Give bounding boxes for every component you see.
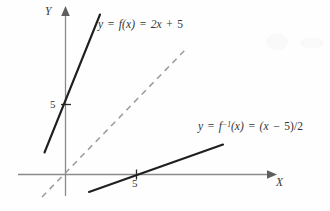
x-axis-tick-label-5: 5 (132, 177, 138, 189)
annotation-fx-coefficient-term: 2x (151, 18, 162, 30)
annotation-finv-equals-1: = (206, 120, 216, 132)
annotation-function-fx: y = f(x) = 2x + 5 (98, 18, 183, 30)
y-axis-tick-label-5: 5 (50, 98, 56, 110)
function-line-fx (45, 15, 101, 153)
annotation-fx-plus-sign: + (165, 18, 175, 30)
annotation-function-f-inverse: y = f−1(x) = (x − 5)/2 (198, 120, 303, 132)
annotation-fx-constant: 5 (177, 18, 183, 30)
annotation-fx-equals-1: = (106, 18, 116, 30)
annotation-finv-exponent: −1 (222, 120, 231, 129)
annotation-finv-minus-sign: − (272, 120, 282, 132)
x-axis-label: X (276, 176, 283, 188)
annotation-finv-open-term: (x (260, 120, 269, 132)
annotation-fx-equals-2: = (138, 18, 148, 30)
annotation-finv-equals-2: = (247, 120, 257, 132)
y-axis-arrowhead (61, 6, 70, 16)
function-line-f-inverse (89, 145, 223, 193)
annotation-finv-divisor: /2 (294, 120, 303, 132)
y-axis-label: Y (45, 5, 51, 17)
annotation-finv-variable-y: y (198, 120, 203, 132)
inverse-function-graph-figure: Y X 5 5 y = f(x) = 2x + 5 y = f−1(x) = (… (0, 0, 330, 211)
annotation-finv-argument: (x) (231, 120, 244, 132)
annotation-finv-numerator-close: 5) (284, 120, 294, 132)
annotation-fx-variable-y: y (98, 18, 103, 30)
annotation-fx-argument: (x) (122, 18, 135, 30)
